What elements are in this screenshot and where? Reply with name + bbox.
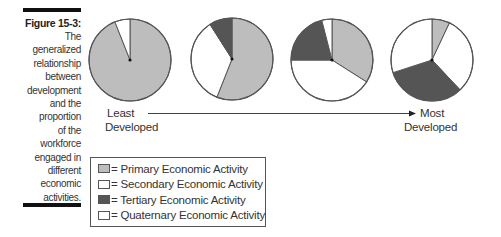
pie-chart: [391, 19, 473, 101]
legend: = Primary Economic Activity = Secondary …: [90, 157, 266, 227]
most-label-line1: Most: [404, 106, 464, 120]
pie-chart: [191, 18, 273, 100]
pie-center-dot: [330, 58, 333, 61]
legend-label: = Tertiary Economic Activity: [111, 194, 245, 206]
legend-label: = Quaternary Economic Activity: [111, 209, 265, 221]
tertiary-swatch-icon: [98, 195, 110, 204]
least-developed-label: Least Developed: [106, 106, 156, 134]
pie-layer: [89, 18, 473, 101]
legend-label: = Primary Economic Activity: [111, 163, 248, 175]
pie-center-dot: [430, 58, 433, 61]
legend-item-quaternary: = Quaternary Economic Activity: [98, 208, 265, 224]
pie-center-dot: [230, 57, 233, 60]
pie-center-dot: [128, 58, 131, 61]
most-label-line2: Developed: [404, 120, 464, 134]
pie-chart: [291, 19, 373, 101]
legend-item-tertiary: = Tertiary Economic Activity: [98, 192, 265, 208]
legend-item-secondary: = Secondary Economic Activity: [98, 177, 265, 193]
secondary-swatch-icon: [98, 180, 110, 189]
legend-item-primary: = Primary Economic Activity: [98, 161, 265, 177]
pie-chart: [89, 19, 171, 101]
least-label-line1: Least: [106, 106, 156, 120]
most-developed-label: Most Developed: [404, 106, 464, 134]
least-label-line2: Developed: [105, 120, 156, 134]
legend-label: = Secondary Economic Activity: [111, 178, 263, 190]
quaternary-swatch-icon: [98, 211, 110, 220]
primary-swatch-icon: [98, 164, 110, 173]
